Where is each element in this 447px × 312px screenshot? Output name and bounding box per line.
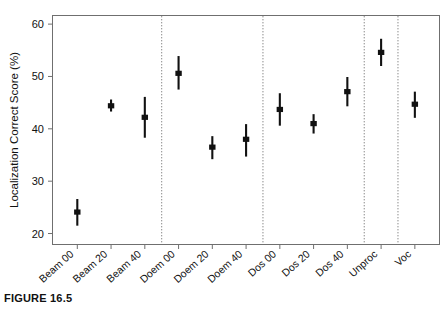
mean-marker xyxy=(108,103,114,108)
mean-marker xyxy=(310,121,316,126)
x-tick-label: Dos 00 xyxy=(245,247,278,278)
y-tick-label: 40 xyxy=(32,123,44,135)
x-tick-label: Beam 20 xyxy=(70,247,109,284)
mean-marker xyxy=(175,71,181,76)
figure-container: Localization Correct Score (%) 203040506… xyxy=(0,0,447,312)
mean-marker xyxy=(344,89,350,94)
x-axis-labels: Beam 00Beam 20Beam 40Doem 00Doem 20Doem … xyxy=(36,247,413,285)
y-axis-ticks: 2030405060 xyxy=(32,18,53,239)
y-tick-label: 30 xyxy=(32,175,44,187)
x-tick-label: Unproc xyxy=(346,248,379,280)
mean-marker xyxy=(142,115,148,120)
figure-caption: FIGURE 16.5 xyxy=(4,292,72,304)
y-tick-label: 60 xyxy=(32,18,44,30)
mean-marker xyxy=(209,145,215,150)
x-tick-label: Voc xyxy=(392,248,413,269)
x-tick-label: Beam 00 xyxy=(36,247,75,284)
x-tick-label: Doem 40 xyxy=(205,247,245,285)
x-tick-label: Doem 00 xyxy=(137,247,177,285)
x-tick-label: Beam 40 xyxy=(104,247,143,284)
mean-marker xyxy=(378,50,384,55)
mean-marker xyxy=(277,107,283,112)
y-tick-label: 50 xyxy=(32,70,44,82)
localization-correct-score-chart: Localization Correct Score (%) 203040506… xyxy=(0,0,447,312)
x-tick-label: Dos 40 xyxy=(313,247,346,278)
mean-marker xyxy=(412,102,418,107)
mean-marker xyxy=(243,137,249,142)
y-axis-label: Localization Correct Score (%) xyxy=(8,52,20,208)
mean-marker xyxy=(74,209,80,214)
x-tick-label: Doem 20 xyxy=(171,247,211,285)
y-tick-label: 20 xyxy=(32,228,44,240)
x-tick-label: Dos 20 xyxy=(279,247,312,278)
